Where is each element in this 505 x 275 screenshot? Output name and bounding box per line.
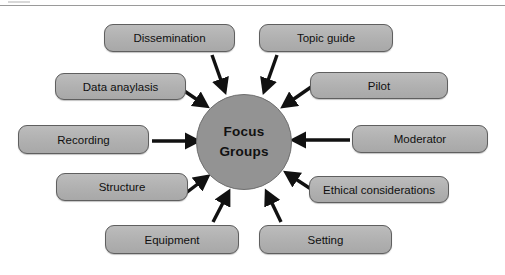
node-label: Recording xyxy=(57,134,109,146)
node-label: Topic guide xyxy=(297,32,355,44)
diagram-canvas: Focus Groups DisseminationTopic guideDat… xyxy=(0,0,505,275)
hub-label-line2: Groups xyxy=(219,142,268,162)
node-data-anaylasis[interactable]: Data anaylasis xyxy=(55,73,186,100)
node-label: Setting xyxy=(308,234,344,246)
node-label: Structure xyxy=(99,181,146,193)
arrow-from-equipment xyxy=(213,197,226,222)
arrow-from-dissemination xyxy=(212,55,223,86)
arrow-from-setting xyxy=(269,197,281,222)
node-pilot[interactable]: Pilot xyxy=(310,72,448,99)
node-ethical-considerations[interactable]: Ethical considerations xyxy=(309,176,449,203)
node-label: Moderator xyxy=(394,133,446,145)
node-label: Pilot xyxy=(368,80,390,92)
arrow-from-topic-guide xyxy=(266,55,277,86)
node-topic-guide[interactable]: Topic guide xyxy=(259,24,393,52)
node-label: Ethical considerations xyxy=(323,184,435,196)
node-structure[interactable]: Structure xyxy=(56,173,188,201)
node-label: Equipment xyxy=(145,234,200,246)
node-dissemination[interactable]: Dissemination xyxy=(104,24,235,52)
node-equipment[interactable]: Equipment xyxy=(105,225,239,254)
node-label: Dissemination xyxy=(133,32,205,44)
node-setting[interactable]: Setting xyxy=(259,225,392,254)
node-label: Data anaylasis xyxy=(83,81,158,93)
hub-label-line1: Focus xyxy=(224,122,265,142)
node-moderator[interactable]: Moderator xyxy=(352,125,488,153)
node-recording[interactable]: Recording xyxy=(18,125,149,154)
central-node-focus-groups[interactable]: Focus Groups xyxy=(196,94,292,190)
